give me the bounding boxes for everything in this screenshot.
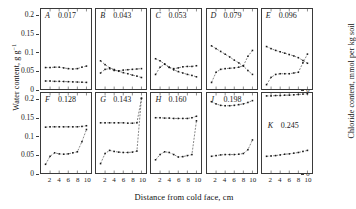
chloride-content-marker bbox=[173, 69, 175, 71]
chloride-content-marker bbox=[210, 45, 212, 47]
chloride-content-marker bbox=[141, 97, 143, 99]
x-axis-title: Distance from cold face, cm bbox=[84, 192, 284, 202]
water-content-line bbox=[101, 69, 142, 73]
x-tick-label: 10 bbox=[249, 176, 257, 184]
chloride-content-marker bbox=[297, 57, 299, 59]
chloride-content-marker bbox=[164, 151, 166, 153]
chloride-content-marker bbox=[58, 81, 60, 83]
chloride-content-marker bbox=[284, 52, 286, 54]
y-tick-label: 0.15 bbox=[21, 114, 34, 122]
x-tick-label: 2 bbox=[211, 176, 219, 184]
chloride-content-marker bbox=[105, 153, 107, 155]
water-content-marker bbox=[45, 126, 47, 128]
chloride-content-marker bbox=[270, 48, 272, 50]
water-content-marker bbox=[275, 74, 277, 76]
chloride-content-marker bbox=[68, 81, 70, 83]
y-axis-right-title: Chloride content, mmol per kg soil bbox=[347, 27, 356, 139]
chloride-content-marker bbox=[105, 64, 107, 66]
water-content-marker bbox=[196, 115, 198, 117]
chloride-content-marker bbox=[54, 81, 56, 83]
chloride-content-marker bbox=[86, 129, 88, 131]
panel-value-k: 0.245 bbox=[281, 121, 299, 130]
x-tick-label: 4 bbox=[110, 176, 118, 184]
panel-h: H0.160 bbox=[150, 92, 202, 174]
water-content-marker bbox=[127, 122, 129, 124]
chloride-content-marker bbox=[72, 152, 74, 154]
chloride-content-marker bbox=[270, 155, 272, 157]
water-content-marker bbox=[224, 105, 226, 107]
panel-value-j: 0.198 bbox=[224, 95, 242, 104]
water-content-marker bbox=[178, 118, 180, 120]
chloride-content-marker bbox=[251, 74, 253, 76]
x-tick-label: 10 bbox=[194, 176, 202, 184]
chloride-content-marker bbox=[109, 67, 111, 69]
water-content-marker bbox=[306, 93, 308, 95]
y-tick-label: 0.05 bbox=[21, 151, 34, 159]
water-content-marker bbox=[242, 103, 244, 105]
water-content-marker bbox=[196, 65, 198, 67]
tick-mark bbox=[36, 155, 39, 156]
chloride-content-marker bbox=[182, 72, 184, 74]
panel-label-e: E bbox=[266, 11, 271, 20]
chloride-content-marker bbox=[219, 51, 221, 53]
y-tick-label: 0.15 bbox=[21, 30, 34, 38]
chloride-content-marker bbox=[164, 63, 166, 65]
panel-a: A0.017 bbox=[40, 8, 92, 90]
water-content-marker bbox=[173, 118, 175, 120]
panel-j: J0.198 bbox=[206, 92, 258, 174]
chloride-content-marker bbox=[178, 71, 180, 73]
panel-label-h: H bbox=[155, 95, 161, 104]
chloride-content-line bbox=[101, 98, 142, 163]
chloride-content-marker bbox=[81, 141, 83, 143]
chloride-content-marker bbox=[123, 152, 125, 154]
water-content-marker bbox=[233, 67, 235, 69]
panel-g: G0.143 bbox=[95, 92, 147, 174]
water-content-marker bbox=[100, 72, 102, 74]
water-content-marker bbox=[132, 69, 134, 71]
panel-label-b: B bbox=[100, 11, 105, 20]
water-content-marker bbox=[68, 68, 70, 70]
chloride-content-marker bbox=[284, 153, 286, 155]
chloride-content-marker bbox=[132, 74, 134, 76]
water-content-marker bbox=[77, 126, 79, 128]
chloride-content-marker bbox=[132, 151, 134, 153]
water-content-marker bbox=[136, 68, 138, 70]
chloride-content-marker bbox=[72, 81, 74, 83]
water-content-marker bbox=[229, 105, 231, 107]
water-content-marker bbox=[81, 126, 83, 128]
chloride-content-marker bbox=[196, 120, 198, 122]
chloride-content-marker bbox=[233, 154, 235, 156]
water-content-marker bbox=[169, 117, 171, 119]
water-content-marker bbox=[219, 105, 221, 107]
water-content-marker bbox=[187, 118, 189, 120]
chloride-content-marker bbox=[293, 152, 295, 154]
water-content-marker bbox=[72, 68, 74, 70]
y-ticks-left-row-top: 00.050.10.150.2 bbox=[14, 8, 36, 90]
water-content-marker bbox=[219, 69, 221, 71]
x-tick-label: 8 bbox=[295, 176, 303, 184]
tick-mark bbox=[36, 118, 39, 119]
chloride-content-marker bbox=[118, 70, 120, 72]
x-tick-label: 6 bbox=[230, 176, 238, 184]
panel-label-j: J bbox=[211, 95, 215, 104]
chloride-content-marker bbox=[77, 81, 79, 83]
water-content-marker bbox=[86, 65, 88, 67]
chloride-content-marker bbox=[45, 164, 47, 166]
x-tick-label: 8 bbox=[239, 176, 247, 184]
chloride-content-line bbox=[46, 130, 87, 165]
water-content-marker bbox=[109, 122, 111, 124]
water-content-marker bbox=[72, 126, 74, 128]
chloride-content-marker bbox=[224, 53, 226, 55]
chloride-content-marker bbox=[238, 153, 240, 155]
chloride-content-marker bbox=[238, 62, 240, 64]
water-content-marker bbox=[215, 103, 217, 105]
water-content-marker bbox=[224, 68, 226, 70]
chloride-content-marker bbox=[136, 150, 138, 152]
water-content-line bbox=[46, 66, 87, 69]
water-content-marker bbox=[54, 126, 56, 128]
chloride-content-marker bbox=[247, 149, 249, 151]
chloride-content-marker bbox=[288, 54, 290, 56]
water-content-marker bbox=[297, 94, 299, 96]
water-content-marker bbox=[63, 67, 65, 69]
panel-value-h: 0.160 bbox=[168, 95, 186, 104]
